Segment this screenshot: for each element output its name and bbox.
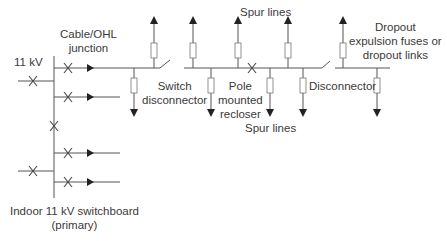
fuse-icon bbox=[285, 43, 291, 58]
disconnector-label: Disconnector bbox=[309, 79, 376, 93]
switchboard-label: Indoor 11 kV switchboard (primary) bbox=[10, 204, 139, 232]
fuse-icon bbox=[208, 78, 214, 93]
spur-down-2 bbox=[207, 68, 215, 117]
feeder-1-arrow-icon bbox=[87, 64, 94, 72]
arrow-up-icon bbox=[189, 16, 197, 24]
spur-lines-bottom-label: Spur lines bbox=[245, 121, 296, 135]
arrow-up-icon bbox=[150, 16, 158, 24]
feeder-4-arrow-icon bbox=[87, 178, 94, 186]
arrow-down-icon bbox=[299, 109, 307, 117]
fuse-icon bbox=[267, 78, 273, 93]
spur-lines-top-label: Spur lines bbox=[240, 5, 291, 19]
arrow-down-icon bbox=[130, 109, 138, 117]
arrow-down-icon bbox=[266, 109, 274, 117]
arrow-down-icon bbox=[373, 109, 381, 117]
fuse-icon bbox=[151, 43, 157, 58]
spur-up-2 bbox=[189, 16, 197, 68]
disconnector-icon bbox=[322, 61, 330, 68]
spur-down-3 bbox=[266, 68, 274, 117]
cable-ohl-junction-label: Cable/OHL junction bbox=[60, 27, 117, 55]
feeder-3-arrow-icon bbox=[87, 149, 94, 157]
fuse-icon bbox=[340, 43, 346, 58]
arrow-down-icon bbox=[207, 109, 215, 117]
spur-down-1 bbox=[130, 68, 138, 117]
feeder-2-arrow-icon bbox=[87, 93, 94, 101]
switch-disconnector-label: Switch disconnector bbox=[142, 79, 207, 107]
fuse-icon bbox=[300, 78, 306, 93]
arrow-up-icon bbox=[339, 16, 347, 24]
fuse-icon bbox=[131, 78, 137, 93]
spur-down-4 bbox=[299, 68, 307, 117]
voltage-label: 11 kV bbox=[14, 55, 43, 69]
switch-disconnector-icon bbox=[160, 60, 170, 68]
fuse-icon bbox=[235, 43, 241, 58]
spur-up-1 bbox=[150, 16, 158, 68]
spur-up-4 bbox=[284, 16, 292, 68]
spur-up-5 bbox=[339, 16, 347, 68]
pole-recloser-label: Pole mounted recloser bbox=[218, 79, 263, 121]
fuse-icon bbox=[190, 43, 196, 58]
dropout-fuses-label: Dropout expulsion fuses or dropout links bbox=[349, 20, 442, 62]
spur-up-3 bbox=[234, 16, 242, 68]
